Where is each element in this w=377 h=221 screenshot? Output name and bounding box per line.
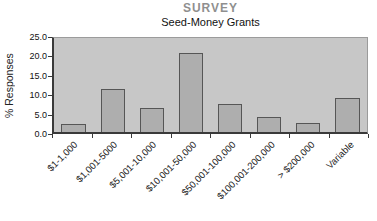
x-tick-label: > $200,000 <box>275 139 317 181</box>
y-tick-mark <box>48 76 52 77</box>
plot-area <box>52 37 368 134</box>
y-axis-title: % Responses <box>2 37 16 134</box>
bar-slot <box>93 38 132 132</box>
bar <box>179 53 203 132</box>
y-tick-label: 25.0 <box>20 32 47 42</box>
y-tick-mark <box>48 115 52 116</box>
x-tick-label: Variable <box>324 139 356 171</box>
bar <box>296 123 320 132</box>
bar-slot <box>54 38 93 132</box>
bar-chart: SURVEY Seed-Money Grants % Responses 25.… <box>0 0 377 221</box>
y-tick-label: 20.0 <box>20 51 47 61</box>
bar <box>61 124 85 132</box>
x-tick-mark <box>329 134 330 138</box>
bars-container <box>54 38 367 132</box>
bar-slot <box>289 38 328 132</box>
bar-slot <box>132 38 171 132</box>
bar <box>101 89 125 132</box>
x-axis-labels: $1-1,000$1,001-5000$5,001-10,000$10,001-… <box>52 139 368 219</box>
y-tick-mark <box>48 37 52 38</box>
bar <box>335 98 359 132</box>
x-tick-mark <box>368 134 369 138</box>
bar-slot <box>211 38 250 132</box>
x-axis-tick-marks <box>52 134 368 138</box>
bar <box>257 117 281 132</box>
x-tick-mark <box>289 134 290 138</box>
bar-slot <box>171 38 210 132</box>
x-tick-mark <box>171 134 172 138</box>
bar <box>140 108 164 132</box>
y-tick-label: 5.0 <box>20 110 47 120</box>
x-tick-mark <box>131 134 132 138</box>
bar <box>218 104 242 132</box>
y-tick-mark <box>48 56 52 57</box>
y-tick-mark <box>48 95 52 96</box>
y-tick-label: 0.0 <box>20 129 47 139</box>
x-tick-label: $1-1,000 <box>45 139 79 173</box>
bar-slot <box>250 38 289 132</box>
y-tick-label: 10.0 <box>20 90 47 100</box>
x-tick-mark <box>210 134 211 138</box>
x-tick-mark <box>92 134 93 138</box>
bar-slot <box>328 38 367 132</box>
x-tick-mark <box>52 134 53 138</box>
chart-subtitle: Seed-Money Grants <box>52 16 369 28</box>
y-tick-label: 15.0 <box>20 71 47 81</box>
y-axis-tick-labels: 25.020.015.010.05.00.0 <box>20 37 47 134</box>
x-tick-mark <box>250 134 251 138</box>
chart-title: SURVEY <box>52 1 369 15</box>
